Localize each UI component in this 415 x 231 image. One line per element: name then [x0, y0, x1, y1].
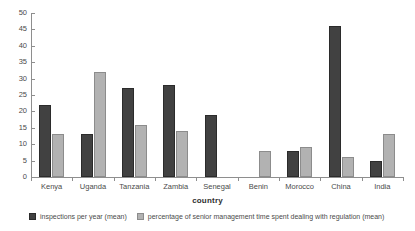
legend-item-inspections: inspections per year (mean)	[29, 213, 127, 220]
y-tick-label: 30	[5, 75, 27, 83]
y-tick-label: 10	[5, 140, 27, 148]
x-tick-mark	[72, 177, 73, 181]
chart-legend: inspections per year (mean) percentage o…	[0, 213, 415, 220]
x-category-label-india: India	[352, 183, 412, 191]
y-tick-label: 20	[5, 107, 27, 115]
y-tick-mark	[31, 79, 35, 80]
y-tick-mark	[31, 46, 35, 47]
bar-tanzania-management-time	[135, 125, 147, 177]
bar-chart-figure: 05101520253035404550 KenyaUgandaTanzania…	[0, 0, 415, 231]
bar-tanzania-inspections	[122, 88, 134, 177]
bar-uganda-management-time	[94, 72, 106, 177]
y-tick-label: 15	[5, 124, 27, 132]
x-tick-mark	[196, 177, 197, 181]
y-tick-label: 0	[5, 173, 27, 181]
bar-uganda-inspections	[81, 134, 93, 177]
x-axis-title: country	[0, 196, 415, 205]
x-tick-mark	[238, 177, 239, 181]
x-axis-line	[31, 177, 403, 178]
y-tick-label: 25	[5, 91, 27, 99]
x-tick-mark	[114, 177, 115, 181]
y-tick-label: 50	[5, 9, 27, 17]
plot-area: 05101520253035404550 KenyaUgandaTanzania…	[0, 0, 415, 185]
y-tick-label: 35	[5, 58, 27, 66]
x-tick-mark	[31, 177, 32, 181]
bar-morocco-inspections	[287, 151, 299, 177]
legend-item-management-time: percentage of senior management time spe…	[137, 213, 385, 220]
bar-china-inspections	[329, 26, 341, 177]
bar-zambia-management-time	[176, 131, 188, 177]
y-tick-mark	[31, 29, 35, 30]
y-tick-label: 45	[5, 25, 27, 33]
bar-zambia-inspections	[163, 85, 175, 177]
legend-swatch-icon-dark	[29, 213, 36, 220]
y-tick-label: 5	[5, 157, 27, 165]
bar-india-management-time	[383, 134, 395, 177]
x-tick-mark	[403, 177, 404, 181]
bar-china-management-time	[342, 157, 354, 177]
y-tick-mark	[31, 144, 35, 145]
y-tick-mark	[31, 161, 35, 162]
bar-benin-management-time	[259, 151, 271, 177]
legend-label-inspections: inspections per year (mean)	[40, 213, 127, 220]
y-tick-mark	[31, 111, 35, 112]
x-tick-mark	[362, 177, 363, 181]
legend-swatch-icon-light	[137, 213, 144, 220]
x-tick-mark	[320, 177, 321, 181]
y-tick-mark	[31, 95, 35, 96]
y-tick-mark	[31, 13, 35, 14]
y-tick-label: 40	[5, 42, 27, 50]
x-tick-mark	[279, 177, 280, 181]
bar-india-inspections	[370, 161, 382, 177]
y-tick-mark	[31, 62, 35, 63]
bar-morocco-management-time	[300, 147, 312, 177]
bar-kenya-inspections	[39, 105, 51, 177]
x-tick-mark	[155, 177, 156, 181]
legend-label-management-time: percentage of senior management time spe…	[148, 213, 385, 220]
bar-senegal-inspections	[205, 115, 217, 177]
y-tick-mark	[31, 128, 35, 129]
bar-kenya-management-time	[52, 134, 64, 177]
